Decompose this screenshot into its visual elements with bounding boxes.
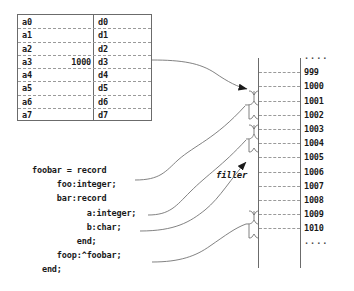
memory-address-label: 1003 <box>304 124 324 134</box>
brace-foo-top <box>245 101 259 105</box>
register-row: a2d2 <box>18 42 151 55</box>
filler-label: filler <box>216 170 247 180</box>
register-address-label: a5 <box>18 83 32 93</box>
register-row: a6d6 <box>18 95 151 108</box>
register-data-label: d5 <box>94 83 108 93</box>
memory-address-label: 1005 <box>304 152 324 162</box>
diagram-canvas: a0d0a1d1a2d2a31000d3a4d4a5d5a6d6a7d7 foo… <box>0 0 354 291</box>
register-data-cell: d6 <box>94 96 151 108</box>
memory-address-label: 1009 <box>304 209 324 219</box>
register-table: a0d0a1d1a2d2a31000d3a4d4a5d5a6d6a7d7 <box>17 14 152 121</box>
register-data-label: d4 <box>94 70 108 80</box>
code-line: foobar = record <box>32 163 136 177</box>
register-data-cell: d5 <box>94 82 151 94</box>
memory-cell-divider <box>259 200 300 201</box>
register-address-cell: a5 <box>18 82 94 94</box>
register-address-label: a0 <box>18 17 32 27</box>
register-address-cell: a2 <box>18 43 94 55</box>
register-data-label: d3 <box>94 57 108 67</box>
memory-address-label: 1004 <box>304 138 324 148</box>
register-address-label: a7 <box>18 110 32 120</box>
register-address-cell: a4 <box>18 69 94 81</box>
register-data-label: d1 <box>94 30 108 40</box>
memory-cell-divider <box>259 186 300 187</box>
memory-address-label: 1007 <box>304 181 324 191</box>
memory-ellipsis: .... <box>304 236 328 246</box>
memory-cell-divider <box>259 228 300 229</box>
register-row: a4d4 <box>18 68 151 81</box>
memory-cell-divider <box>259 143 300 144</box>
memory-address-label: 1000 <box>304 81 324 91</box>
memory-address-label: 1006 <box>304 167 324 177</box>
register-address-label: a3 <box>18 57 32 67</box>
register-row: a1d1 <box>18 28 151 41</box>
register-address-value: 1000 <box>71 57 91 67</box>
code-line: b:char; <box>32 220 136 234</box>
register-data-cell: d7 <box>94 109 151 121</box>
memory-cell-divider <box>259 101 300 102</box>
memory-address-label: 1010 <box>304 223 324 233</box>
memory-cell-divider <box>259 214 300 215</box>
register-address-cell: a31000 <box>18 56 94 68</box>
memory-address-label: 1002 <box>304 110 324 120</box>
memory-cell-divider <box>259 86 300 87</box>
memory-cell-divider <box>259 172 300 173</box>
code-line: bar:record <box>32 191 136 205</box>
register-data-cell: d2 <box>94 43 151 55</box>
register-data-cell: d1 <box>94 29 151 41</box>
register-address-cell: a0 <box>18 15 94 28</box>
register-data-cell: d4 <box>94 69 151 81</box>
memory-cell-divider <box>259 115 300 116</box>
code-line: foo:integer; <box>32 177 136 191</box>
register-data-label: d7 <box>94 110 108 120</box>
register-address-label: a2 <box>18 44 32 54</box>
code-line: end; <box>32 262 136 276</box>
record-declaration-code: foobar = record foo:integer; bar:record … <box>32 163 136 277</box>
register-row: a31000d3 <box>18 55 151 68</box>
register-data-label: d6 <box>94 97 108 107</box>
register-data-cell: d0 <box>94 15 151 28</box>
code-line: a:integer; <box>32 206 136 220</box>
register-data-cell: d3 <box>94 56 151 68</box>
connector-foop-to-memory <box>152 224 246 262</box>
memory-cell-divider <box>259 157 300 158</box>
memory-address-label: 1001 <box>304 96 324 106</box>
connector-a3-to-1000 <box>152 60 247 89</box>
memory-ellipsis: .... <box>304 51 328 61</box>
code-line: foop:^foobar; <box>32 248 136 262</box>
register-address-cell: a6 <box>18 96 94 108</box>
memory-address-column: ....999100010011002100310041005100610071… <box>258 58 354 268</box>
memory-address-label: 999 <box>304 67 319 77</box>
register-row: a5d5 <box>18 81 151 94</box>
memory-cell-divider <box>259 72 300 73</box>
register-address-cell: a7 <box>18 109 94 121</box>
register-address-cell: a1 <box>18 29 94 41</box>
register-data-label: d2 <box>94 44 108 54</box>
register-address-label: a6 <box>18 97 32 107</box>
register-address-label: a4 <box>18 70 32 80</box>
code-line: end; <box>32 234 136 248</box>
memory-address-label: 1008 <box>304 195 324 205</box>
register-row: a0d0 <box>18 15 151 28</box>
register-data-label: d0 <box>94 17 108 27</box>
register-row: a7d7 <box>18 108 151 121</box>
memory-row: .... <box>258 243 354 257</box>
memory-cell-divider <box>259 129 300 130</box>
register-address-label: a1 <box>18 30 32 40</box>
